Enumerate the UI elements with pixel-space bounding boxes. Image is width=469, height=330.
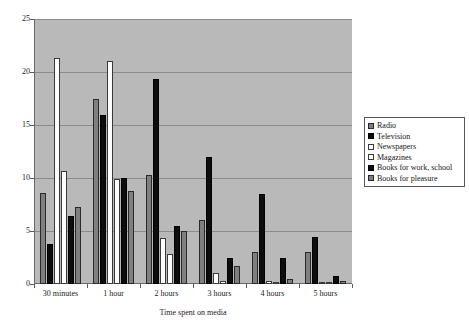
- bar: [54, 58, 60, 284]
- x-tick-mark: [34, 284, 35, 288]
- legend-label: Newspapers: [377, 142, 416, 151]
- bar: [68, 216, 74, 284]
- x-axis-title: Time spent on media: [34, 308, 352, 318]
- bar-chart: 0510152025 30 minutes1 hour2 hours3 hour…: [0, 0, 469, 330]
- bar: [93, 99, 99, 285]
- legend-swatch-icon: [368, 154, 374, 160]
- legend-label: Magazines: [377, 153, 412, 162]
- bar: [199, 220, 205, 284]
- x-tick-label: 3 hours: [193, 289, 246, 299]
- x-tick-label: 5 hours: [299, 289, 352, 299]
- legend-item[interactable]: Radio: [368, 121, 462, 131]
- bar: [40, 193, 46, 284]
- y-tick-label: 5: [4, 227, 30, 235]
- legend: RadioTelevisionNewspapersMagazinesBooks …: [364, 117, 465, 187]
- bar-group: [299, 19, 352, 284]
- bar-group: [87, 19, 140, 284]
- bar: [160, 238, 166, 284]
- bar: [100, 115, 106, 284]
- x-tick-mark: [299, 284, 300, 288]
- bar: [146, 175, 152, 284]
- x-tick-label: 2 hours: [140, 289, 193, 299]
- x-tick-mark: [352, 284, 353, 288]
- bar: [121, 178, 127, 284]
- x-tick-label: 4 hours: [246, 289, 299, 299]
- bar: [206, 157, 212, 284]
- bar: [333, 276, 339, 284]
- y-tick-label: 20: [4, 68, 30, 76]
- legend-item[interactable]: Television: [368, 131, 462, 141]
- x-axis-labels: 30 minutes1 hour2 hours3 hours4 hours5 h…: [34, 289, 352, 299]
- bar: [227, 258, 233, 285]
- bar: [153, 79, 159, 284]
- legend-item[interactable]: Books for work, school: [368, 163, 462, 173]
- bar: [312, 237, 318, 284]
- bar: [167, 254, 173, 284]
- y-tick-label: 25: [4, 15, 30, 23]
- x-tick-mark: [87, 284, 88, 288]
- bar-groups: [34, 19, 352, 284]
- bar: [174, 226, 180, 284]
- bar: [107, 61, 113, 284]
- bar-group: [246, 19, 299, 284]
- bar-group: [140, 19, 193, 284]
- bar: [114, 179, 120, 284]
- legend-swatch-icon: [368, 144, 374, 150]
- bar: [234, 266, 240, 284]
- x-tick-mark: [140, 284, 141, 288]
- bar: [128, 191, 134, 284]
- x-tick-label: 30 minutes: [34, 289, 87, 299]
- legend-swatch-icon: [368, 165, 374, 171]
- x-tick-label: 1 hour: [87, 289, 140, 299]
- bar: [252, 252, 258, 284]
- legend-item[interactable]: Books for pleasure: [368, 173, 462, 183]
- bar: [61, 171, 67, 284]
- legend-item[interactable]: Magazines: [368, 152, 462, 162]
- legend-swatch-icon: [368, 123, 374, 129]
- legend-label: Radio: [377, 121, 396, 130]
- bar: [213, 273, 219, 284]
- legend-swatch-icon: [368, 133, 374, 139]
- bar: [259, 194, 265, 284]
- bar: [75, 207, 81, 284]
- bar-group: [193, 19, 246, 284]
- bar: [280, 258, 286, 285]
- y-tick-label: 10: [4, 174, 30, 182]
- y-tick-label: 0: [4, 280, 30, 288]
- legend-label: Books for pleasure: [377, 174, 437, 183]
- legend-swatch-icon: [368, 175, 374, 181]
- bar: [305, 252, 311, 284]
- bar: [181, 231, 187, 284]
- y-tick-label: 15: [4, 121, 30, 129]
- y-axis: 0510152025: [0, 19, 30, 284]
- legend-item[interactable]: Newspapers: [368, 142, 462, 152]
- legend-label: Books for work, school: [377, 163, 452, 172]
- x-tick-mark: [193, 284, 194, 288]
- x-tick-mark: [246, 284, 247, 288]
- bar-group: [34, 19, 87, 284]
- bar: [47, 244, 53, 284]
- legend-label: Television: [377, 132, 410, 141]
